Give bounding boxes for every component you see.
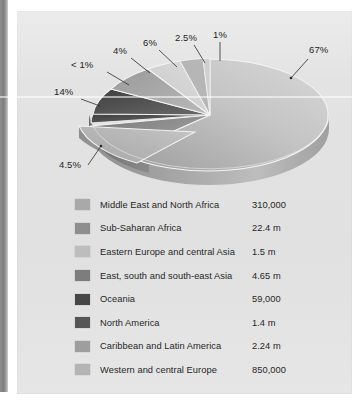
legend-swatch-icon [75, 246, 90, 257]
pie-label-4: 4% [113, 45, 127, 56]
legend-swatch-icon [75, 223, 90, 234]
legend-label: Oceania [100, 294, 252, 304]
legend-row: Western and central Europe 850,000 [75, 358, 325, 382]
pie-label-6: 6% [143, 37, 157, 48]
legend-value: 1.5 m [252, 247, 276, 257]
legend-value: 850,000 [252, 365, 286, 375]
legend-swatch-icon [75, 364, 90, 375]
legend-label: Eastern Europe and central Asia [100, 247, 252, 257]
page-edge-bar [0, 0, 8, 392]
pie-label-2-5: 2.5% [175, 32, 197, 43]
legend-row: Oceania 59,000 [75, 287, 325, 311]
legend-row: Middle East and North Africa 310,000 [75, 193, 325, 217]
chart-legend: Middle East and North Africa 310,000 Sub… [75, 193, 325, 382]
legend-value: 310,000 [252, 200, 286, 210]
legend-swatch-icon [75, 199, 90, 210]
legend-row: North America 1.4 m [75, 311, 325, 335]
legend-value: 1.4 m [252, 318, 276, 328]
legend-swatch-icon [75, 270, 90, 281]
legend-label: Sub-Saharan Africa [100, 223, 252, 233]
legend-row: Caribbean and Latin America 2.24 m [75, 335, 325, 359]
legend-swatch-icon [75, 294, 90, 305]
legend-label: Caribbean and Latin America [100, 341, 252, 351]
legend-row: Eastern Europe and central Asia 1.5 m [75, 240, 325, 264]
legend-row: Sub-Saharan Africa 22.4 m [75, 217, 325, 241]
pie-label-1: 1% [213, 29, 227, 40]
legend-label: Western and central Europe [100, 365, 252, 375]
pie-label-67: 67% [309, 44, 328, 55]
legend-value: 59,000 [252, 294, 281, 304]
legend-value: 4.65 m [252, 271, 281, 281]
legend-label: North America [100, 318, 252, 328]
legend-label: Middle East and North Africa [100, 200, 252, 210]
legend-swatch-icon [75, 317, 90, 328]
pie-chart: 67% 1% 2.5% 6% 4% < 1% 14% 4.5% [17, 11, 352, 196]
pie-label-lt-1: < 1% [71, 59, 93, 70]
legend-label: East, south and south-east Asia [100, 271, 252, 281]
scanline-artifact [0, 96, 356, 98]
legend-value: 22.4 m [252, 223, 281, 233]
pie-label-4-5: 4.5% [59, 159, 81, 170]
legend-row: East, south and south-east Asia 4.65 m [75, 264, 325, 288]
legend-swatch-icon [75, 341, 90, 352]
legend-value: 2.24 m [252, 341, 281, 351]
